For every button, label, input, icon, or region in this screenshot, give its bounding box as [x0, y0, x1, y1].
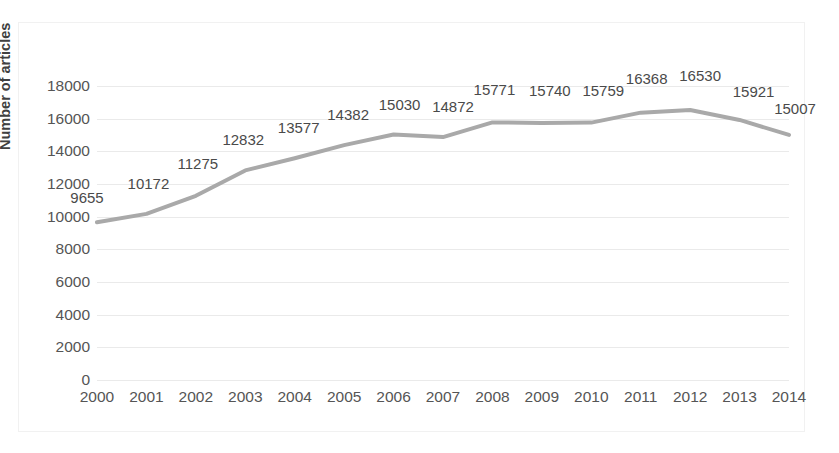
x-axis-tick-label: 2008 — [464, 388, 520, 406]
x-axis-tick-label: 2010 — [563, 388, 619, 406]
x-axis-tick-label: 2012 — [662, 388, 718, 406]
data-point-label: 10172 — [128, 175, 170, 192]
y-axis-tick-label: 10000 — [20, 208, 90, 226]
data-point-label: 16368 — [626, 70, 668, 87]
y-axis-tick-label: 16000 — [20, 110, 90, 128]
data-point-label: 16530 — [679, 67, 721, 84]
data-point-label: 15007 — [774, 100, 816, 117]
chart-figure: Number of articles 180001600014000120001… — [0, 0, 839, 453]
data-point-label: 15740 — [529, 82, 571, 99]
y-axis-tick-label: 8000 — [20, 240, 90, 258]
x-axis-tick-label: 2002 — [168, 388, 224, 406]
data-point-label: 15030 — [379, 96, 421, 113]
y-axis-title: Number of articles — [0, 23, 13, 150]
x-axis-tick-label: 2004 — [267, 388, 323, 406]
y-axis-tick-label: 4000 — [20, 306, 90, 324]
data-point-label: 11275 — [178, 155, 219, 172]
y-axis-tick-label: 18000 — [20, 77, 90, 95]
x-axis-tick-label: 2007 — [415, 388, 471, 406]
x-axis-tick-labels: 2000200120022003200420052006200720082009… — [97, 388, 789, 412]
y-axis-tick-label: 0 — [20, 371, 90, 389]
x-axis-tick-label: 2014 — [761, 388, 817, 406]
x-axis-tick-label: 2005 — [316, 388, 372, 406]
data-point-label: 12832 — [222, 131, 264, 148]
y-axis-tick-labels: 1800016000140001200010000800060004000200… — [18, 86, 90, 380]
gridline — [97, 380, 789, 381]
x-axis-tick-label: 2001 — [118, 388, 174, 406]
x-axis-tick-label: 2003 — [217, 388, 273, 406]
y-axis-tick-label: 14000 — [20, 142, 90, 160]
data-point-label: 14872 — [432, 98, 474, 115]
x-axis-tick-label: 2006 — [366, 388, 422, 406]
data-point-label: 14382 — [327, 106, 369, 123]
y-axis-tick-label: 6000 — [20, 273, 90, 291]
x-axis-tick-label: 2013 — [712, 388, 768, 406]
x-axis-tick-label: 2009 — [514, 388, 570, 406]
data-point-label: 9655 — [70, 189, 103, 206]
y-axis-tick-label: 2000 — [20, 338, 90, 356]
data-point-label: 15921 — [733, 83, 775, 100]
data-point-label: 13577 — [278, 119, 320, 136]
data-point-label: 15771 — [474, 81, 516, 98]
data-point-label: 15759 — [582, 82, 624, 99]
series-line-articles — [97, 86, 789, 380]
plot-area — [97, 86, 789, 380]
x-axis-tick-label: 2011 — [613, 388, 669, 406]
x-axis-tick-label: 2000 — [69, 388, 125, 406]
